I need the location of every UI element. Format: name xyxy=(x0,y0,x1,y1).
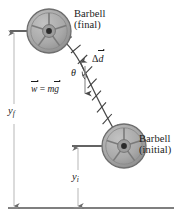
mass-symbol: m xyxy=(47,84,54,94)
theta-symbol: θ xyxy=(71,67,76,78)
displacement-variable: d xyxy=(98,53,103,64)
yf-subscript: f xyxy=(13,109,15,118)
label-barbell-final: Barbell (final) xyxy=(74,8,106,31)
barbell-final-state: (final) xyxy=(74,19,106,30)
barbell-plate-final xyxy=(27,9,71,53)
measure-y-final xyxy=(10,33,19,208)
yi-subscript: i xyxy=(77,175,79,184)
label-angle-theta: θ xyxy=(71,67,76,78)
barbell-final-name: Barbell xyxy=(74,8,106,19)
label-barbell-initial: Barbell (initial) xyxy=(139,133,171,156)
barbell-initial-name: Barbell xyxy=(139,133,171,144)
label-weight-equation: w = mg xyxy=(31,84,59,94)
label-height-initial: yi xyxy=(72,171,79,184)
weight-symbol: w xyxy=(31,84,37,94)
label-displacement-vector: Δd xyxy=(92,53,103,64)
barbell-physics-diagram: Barbell (final) Barbell (initial) Δd θ w… xyxy=(0,0,182,224)
barbell-initial-state: (initial) xyxy=(139,144,171,155)
gravity-symbol: g xyxy=(54,84,59,94)
label-height-final: yf xyxy=(8,105,15,118)
diagram-canvas xyxy=(0,0,182,224)
displacement-vector xyxy=(81,63,88,79)
